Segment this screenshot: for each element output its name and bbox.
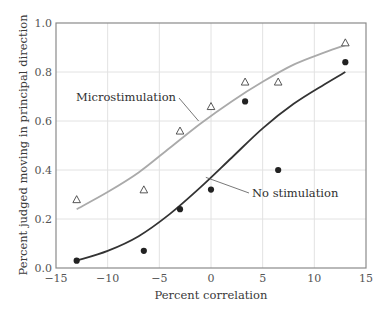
no-stimulation-point [74, 258, 80, 264]
microstimulation-point [207, 103, 215, 110]
psychometric-chart: −15−10−5051015 0.00.20.40.60.81.0 Micros… [0, 0, 390, 311]
y-tick-label: 0.6 [35, 115, 53, 128]
no-stimulation-point [208, 187, 214, 193]
annotations: MicrostimulationNo stimulation [76, 90, 339, 200]
y-tick-label: 0.2 [35, 213, 53, 226]
x-tick-label: −10 [96, 272, 119, 285]
x-tick-label: 5 [259, 272, 266, 285]
microstimulation-point [241, 78, 249, 85]
x-tick-label: 0 [208, 272, 215, 285]
microstimulation-point [342, 39, 350, 46]
no-stimulation-point [275, 167, 281, 173]
y-tick-label: 0.4 [35, 164, 53, 177]
microstimulation-point [274, 78, 282, 85]
microstimulation-point [73, 196, 81, 203]
x-tick-label: 15 [359, 272, 373, 285]
microstimulation-point [140, 186, 148, 193]
no-stimulation-point [177, 206, 183, 212]
y-tick-label: 0.8 [35, 66, 53, 79]
y-axis-label: Percent judged moving in principal direc… [16, 14, 30, 276]
y-tick-label: 1.0 [35, 17, 53, 30]
microstimulation-point [176, 127, 184, 134]
no-stimulation-point [141, 248, 147, 254]
no-stimulation-label: No stimulation [252, 186, 339, 200]
y-tick-label: 0.0 [35, 262, 53, 275]
microstimulation-label: Microstimulation [76, 90, 177, 104]
no-stimulation-point [342, 59, 348, 65]
y-axis-ticks: 0.00.20.40.60.81.0 [35, 17, 53, 275]
x-tick-label: 10 [307, 272, 321, 285]
x-tick-label: −5 [151, 272, 167, 285]
no-stimulation-point [242, 98, 248, 104]
microstimulation-leader-line [179, 98, 199, 121]
grid-lines [56, 23, 366, 268]
x-axis-ticks: −15−10−5051015 [44, 272, 373, 285]
x-axis-label: Percent correlation [155, 288, 268, 302]
